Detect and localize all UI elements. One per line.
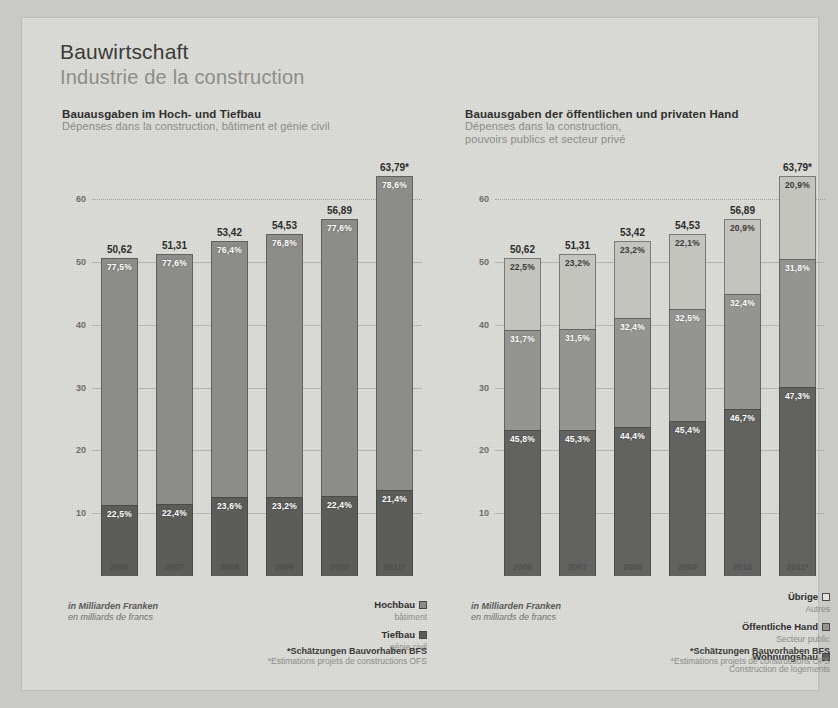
bar-total-label: 56,89 xyxy=(730,205,755,216)
bar-group-2008[interactable]: 53,4223,2%32,4%44,4%2008 xyxy=(614,241,650,576)
bar-group-2010[interactable]: 56,8977,6%22,4%2010 xyxy=(321,219,357,576)
legend-label-oeffentliche-hand: Öffentliche Hand xyxy=(742,621,830,632)
segment-percent-label: 77,6% xyxy=(162,258,187,268)
segment-percent-label: 31,7% xyxy=(510,334,535,344)
chart-left: 10203040506050,6277,5%22,5%200651,3177,6… xyxy=(56,150,426,598)
bar-segment-hochbau: 76,4% xyxy=(211,241,247,497)
gridline-50 xyxy=(92,262,422,263)
gridline-10 xyxy=(92,513,422,514)
gridline-60 xyxy=(92,199,422,200)
chart-right-heading: Bauausgaben der öffentlichen und private… xyxy=(465,108,739,146)
bar-segment--ffentliche-hand: 31,7% xyxy=(504,330,540,431)
unit-fr: en milliards de francs xyxy=(68,612,158,623)
x-axis-label-2007: 2007 xyxy=(568,562,587,572)
bar-segment--ffentliche-hand: 31,5% xyxy=(559,329,595,430)
bar-group-2010[interactable]: 56,8920,9%32,4%46,7%2010 xyxy=(724,219,760,576)
segment-percent-label: 22,4% xyxy=(162,508,187,518)
bar-total-label: 53,42 xyxy=(217,227,242,238)
y-axis-tick-50: 50 xyxy=(455,257,489,267)
bar-segment-wohnungsbau: 47,3% xyxy=(779,387,815,576)
segment-percent-label: 45,4% xyxy=(675,425,700,435)
bar-total-label: 51,31 xyxy=(565,240,590,251)
gridline-30 xyxy=(92,388,422,389)
bar-segment-wohnungsbau: 44,4% xyxy=(614,427,650,576)
legend-label-uebrige-fr: Autres xyxy=(662,604,830,614)
y-axis-tick-60: 60 xyxy=(455,194,489,204)
poster-panel: Bauwirtschaft Industrie de la constructi… xyxy=(22,18,818,690)
legend-item-hochbau[interactable]: Hochbau bâtiment xyxy=(272,594,427,622)
bar-group-2007[interactable]: 51,3177,6%22,4%2007 xyxy=(156,254,192,576)
segment-percent-label: 76,8% xyxy=(272,238,297,248)
chart-right-footnote: *Schätzungen Bauvorhaben BFS *Estimation… xyxy=(622,646,830,666)
legend-item-uebrige[interactable]: Übrige Autres xyxy=(662,586,830,614)
bar-segment-hochbau: 77,6% xyxy=(156,254,192,504)
x-axis-label-2010: 2010 xyxy=(733,562,752,572)
segment-percent-label: 76,4% xyxy=(217,245,242,255)
legend-item-oeffentliche-hand[interactable]: Öffentliche Hand Secteur public xyxy=(662,616,830,644)
legend-swatch-icon-uebrige xyxy=(822,593,830,601)
segment-percent-label: 23,2% xyxy=(565,258,590,268)
segment-percent-label: 22,5% xyxy=(107,509,132,519)
bar-total-label: 54,53 xyxy=(675,220,700,231)
segment-percent-label: 44,4% xyxy=(620,431,645,441)
segment-percent-label: 23,6% xyxy=(217,501,242,511)
segment-percent-label: 45,3% xyxy=(565,434,590,444)
unit-de: in Milliarden Franken xyxy=(68,601,158,612)
segment-percent-label: 32,4% xyxy=(730,298,755,308)
y-axis-tick-40: 40 xyxy=(455,320,489,330)
legend-label-hochbau-fr: bâtiment xyxy=(272,612,427,622)
segment-percent-label: 22,4% xyxy=(327,500,352,510)
bar-group-2006[interactable]: 50,6222,5%31,7%45,8%2006 xyxy=(504,258,540,576)
bar-group-2009[interactable]: 54,5376,8%23,2%2009 xyxy=(266,234,302,576)
bar-group-2007[interactable]: 51,3123,2%31,5%45,3%2007 xyxy=(559,254,595,576)
bar-group-2009[interactable]: 54,5322,1%32,5%45,4%2009 xyxy=(669,234,705,576)
unit-fr: en milliards de francs xyxy=(471,612,561,623)
legend-label-oeffentliche-hand-fr: Secteur public xyxy=(662,634,830,644)
segment-percent-label: 77,5% xyxy=(107,262,132,272)
bar-segment-wohnungsbau: 45,3% xyxy=(559,430,595,576)
chart-left-title-fr: Dépenses dans la construction, bâtiment … xyxy=(62,120,330,133)
bar-segment--ffentliche-hand: 32,4% xyxy=(614,318,650,427)
segment-percent-label: 21,4% xyxy=(382,494,407,504)
segment-percent-label: 22,1% xyxy=(675,238,700,248)
x-axis-label-2006: 2006 xyxy=(513,562,532,572)
chart-right-title-de: Bauausgaben der öffentlichen und private… xyxy=(465,108,739,120)
chart-left-title-de: Bauausgaben im Hoch- und Tiefbau xyxy=(62,108,330,120)
legend-swatch-icon-tiefbau xyxy=(419,631,427,639)
page-title-de: Bauwirtschaft xyxy=(60,40,189,64)
footnote-fr: *Estimations projets de constructions OF… xyxy=(622,656,830,666)
x-axis-label-2011: 2011* xyxy=(787,562,809,572)
segment-percent-label: 32,5% xyxy=(675,313,700,323)
bar-segment--brige: 22,1% xyxy=(669,234,705,310)
bar-total-label: 56,89 xyxy=(327,205,352,216)
segment-percent-label: 31,8% xyxy=(785,263,810,273)
y-axis-tick-10: 10 xyxy=(455,508,489,518)
bar-total-label: 54,53 xyxy=(272,220,297,231)
chart-left-footnote: *Schätzungen Bauvorhaben BFS *Estimation… xyxy=(237,646,427,666)
bar-segment-hochbau: 77,6% xyxy=(321,219,357,496)
legend-swatch-icon-hochbau xyxy=(419,601,427,609)
x-axis-label-2007: 2007 xyxy=(165,562,184,572)
segment-percent-label: 22,5% xyxy=(510,262,535,272)
chart-left-unit-note: in Milliarden Franken en milliards de fr… xyxy=(68,601,158,623)
bar-total-label: 50,62 xyxy=(107,244,132,255)
chart-right: 10203040506050,6222,5%31,7%45,8%200651,3… xyxy=(459,150,829,598)
bar-segment-hochbau: 76,8% xyxy=(266,234,302,497)
gridline-50 xyxy=(495,262,825,263)
bar-total-label: 53,42 xyxy=(620,227,645,238)
bar-segment-hochbau: 77,5% xyxy=(101,258,137,504)
x-axis-label-2010: 2010 xyxy=(330,562,349,572)
bar-group-2006[interactable]: 50,6277,5%22,5%2006 xyxy=(101,258,137,576)
chart-left-plot-area: 10203040506050,6277,5%22,5%200651,3177,6… xyxy=(92,168,422,576)
chart-right-unit-note: in Milliarden Franken en milliards de fr… xyxy=(471,601,561,623)
y-axis-tick-40: 40 xyxy=(52,320,86,330)
segment-percent-label: 20,9% xyxy=(785,180,810,190)
bar-group-2011[interactable]: 63,79*20,9%31,8%47,3%2011* xyxy=(779,176,815,576)
bar-group-2008[interactable]: 53,4276,4%23,6%2008 xyxy=(211,241,247,576)
bar-group-2011[interactable]: 63,79*78,6%21,4%2011* xyxy=(376,176,412,576)
legend-text: Hochbau xyxy=(374,599,415,610)
segment-percent-label: 20,9% xyxy=(730,223,755,233)
y-axis-tick-60: 60 xyxy=(52,194,86,204)
segment-percent-label: 47,3% xyxy=(785,391,810,401)
chart-right-title-fr-line1: Dépenses dans la construction, xyxy=(465,120,739,133)
